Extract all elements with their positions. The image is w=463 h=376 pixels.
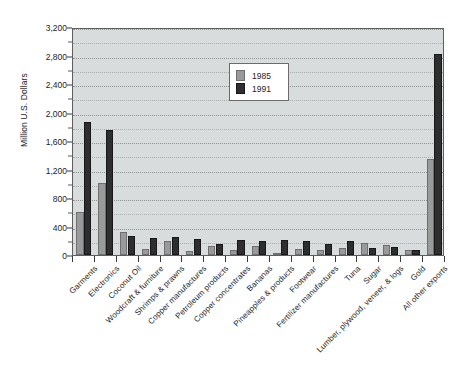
- legend-swatch-1985: [236, 70, 245, 81]
- bar-1985: [295, 249, 302, 255]
- bar-1991: [216, 244, 223, 255]
- y-tick-label: 1,600: [23, 137, 67, 147]
- y-tick-mark: [68, 127, 72, 128]
- bar-1991: [391, 247, 398, 255]
- gridline-major: [73, 29, 443, 30]
- bar-1991: [150, 238, 157, 255]
- bar-1991: [281, 240, 288, 255]
- legend-label-1991: 1991: [252, 84, 271, 94]
- x-tick-mark: [138, 256, 139, 262]
- x-tick-mark: [72, 256, 73, 262]
- x-tick-mark: [94, 256, 95, 262]
- bar-1991: [237, 240, 244, 255]
- x-tick-mark: [378, 256, 379, 262]
- x-tick-mark: [247, 256, 248, 262]
- bar-1991: [194, 239, 201, 255]
- x-tick-mark: [181, 256, 182, 262]
- legend-item-1985: 1985: [236, 69, 282, 82]
- bar-1985: [76, 212, 83, 255]
- gridline-minor: [73, 214, 443, 215]
- gridline-major: [73, 58, 443, 59]
- y-tick-mark: [67, 142, 72, 143]
- x-tick-mark: [313, 256, 314, 262]
- bar-1991: [369, 248, 376, 255]
- y-tick-label: 3,200: [23, 23, 67, 33]
- gridline-minor: [73, 43, 443, 44]
- bar-1985: [427, 159, 434, 255]
- bar-1985: [405, 250, 412, 255]
- bar-1985: [208, 246, 215, 255]
- x-tick-mark: [444, 256, 445, 262]
- y-tick-mark: [68, 241, 72, 242]
- bar-1991: [347, 241, 354, 255]
- bar-1985: [339, 248, 346, 255]
- x-axis-label: Tuna: [343, 264, 362, 283]
- y-tick-mark: [67, 28, 72, 29]
- bar-chart: Million U.S. Dollars 04008001,2001,6002,…: [0, 0, 463, 376]
- x-axis-label: Gold: [409, 264, 428, 283]
- y-tick-mark: [67, 199, 72, 200]
- bar-1985: [317, 250, 324, 255]
- bar-1985: [120, 232, 127, 256]
- gridline-minor: [73, 129, 443, 130]
- legend-label-1985: 1985: [252, 71, 271, 81]
- x-tick-mark: [400, 256, 401, 262]
- bar-1985: [383, 245, 390, 255]
- x-tick-mark: [160, 256, 161, 262]
- gridline-major: [73, 172, 443, 173]
- x-tick-mark: [335, 256, 336, 262]
- y-tick-mark: [68, 213, 72, 214]
- y-tick-mark: [68, 156, 72, 157]
- gridline-minor: [73, 186, 443, 187]
- y-tick-label: 0: [23, 251, 67, 261]
- y-tick-label: 800: [23, 194, 67, 204]
- bar-1985: [98, 183, 105, 255]
- y-tick-mark: [68, 70, 72, 71]
- bar-1991: [106, 130, 113, 255]
- bar-1991: [259, 241, 266, 255]
- bar-1991: [128, 236, 135, 255]
- bar-1985: [252, 246, 259, 255]
- x-tick-mark: [225, 256, 226, 262]
- legend: 1985 1991: [229, 63, 289, 101]
- y-tick-mark: [68, 99, 72, 100]
- x-tick-mark: [422, 256, 423, 262]
- y-tick-mark: [67, 113, 72, 114]
- y-tick-mark: [68, 42, 72, 43]
- gridline-minor: [73, 157, 443, 158]
- bar-1985: [186, 251, 193, 255]
- bar-1985: [273, 253, 280, 255]
- bar-1991: [434, 54, 441, 255]
- bar-1991: [84, 122, 91, 255]
- y-tick-mark: [67, 227, 72, 228]
- y-tick-mark: [68, 184, 72, 185]
- y-tick-mark: [67, 170, 72, 171]
- bar-1985: [142, 249, 149, 255]
- y-tick-label: 2,000: [23, 109, 67, 119]
- y-tick-label: 2,400: [23, 80, 67, 90]
- y-tick-mark: [67, 56, 72, 57]
- legend-item-1991: 1991: [236, 82, 282, 95]
- bar-1991: [412, 250, 419, 255]
- y-tick-label: 2,800: [23, 52, 67, 62]
- y-tick-label: 400: [23, 223, 67, 233]
- gridline-major: [73, 200, 443, 201]
- gridline-major: [73, 229, 443, 230]
- bar-1985: [164, 241, 171, 255]
- legend-swatch-1991: [236, 83, 245, 94]
- bar-1991: [303, 241, 310, 255]
- x-tick-mark: [116, 256, 117, 262]
- bar-1985: [361, 243, 368, 255]
- x-tick-mark: [356, 256, 357, 262]
- y-tick-label: 1,200: [23, 166, 67, 176]
- gridline-major: [73, 143, 443, 144]
- x-tick-mark: [203, 256, 204, 262]
- bar-1985: [230, 250, 237, 255]
- x-tick-mark: [269, 256, 270, 262]
- bar-1991: [325, 244, 332, 255]
- gridline-major: [73, 115, 443, 116]
- x-tick-mark: [291, 256, 292, 262]
- y-tick-mark: [67, 85, 72, 86]
- bar-1991: [172, 237, 179, 255]
